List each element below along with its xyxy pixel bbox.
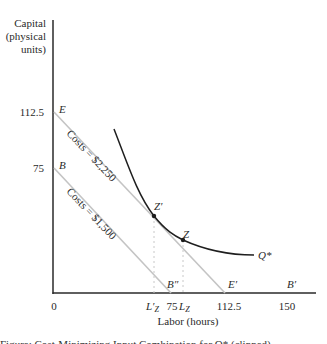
x-tick-150: 150 bbox=[279, 300, 296, 312]
x-tick-lz-prime: L′Z bbox=[145, 300, 160, 314]
x-tick-75: 75 bbox=[167, 300, 179, 312]
y-axis-label-line-1: Capital bbox=[14, 17, 46, 29]
figure-caption-clipped: Figure: Cost-Minimizing Input Combinatio… bbox=[0, 334, 327, 344]
label-q-star: Q* bbox=[258, 249, 272, 261]
x-tick-112-5: 112.5 bbox=[217, 300, 242, 312]
label-b-double-prime: B″ bbox=[167, 278, 179, 290]
cost-label-2250: Costs = $2,250 bbox=[65, 127, 120, 184]
y-tick-75: 75 bbox=[33, 162, 45, 174]
label-e-prime: E′ bbox=[227, 278, 238, 290]
label-e: E bbox=[58, 103, 66, 115]
x-axis-label: Labor (hours) bbox=[158, 315, 219, 328]
label-b-prime: B′ bbox=[287, 278, 297, 290]
y-axis-label-line-3: units) bbox=[21, 43, 46, 56]
isocost-isoquant-chart: Capital (physical units) 112.5 75 E B Z′… bbox=[0, 0, 327, 344]
x-tick-lz: LZ bbox=[178, 300, 190, 314]
label-z: Z bbox=[183, 228, 190, 240]
point-z-prime bbox=[152, 214, 156, 218]
y-tick-112-5: 112.5 bbox=[20, 106, 45, 118]
cost-label-1500: Costs = $1,500 bbox=[65, 185, 120, 242]
label-z-prime: Z′ bbox=[154, 200, 163, 212]
x-tick-0: 0 bbox=[51, 300, 57, 312]
y-axis-label-line-2: (physical bbox=[6, 30, 46, 43]
label-b: B bbox=[59, 159, 66, 171]
